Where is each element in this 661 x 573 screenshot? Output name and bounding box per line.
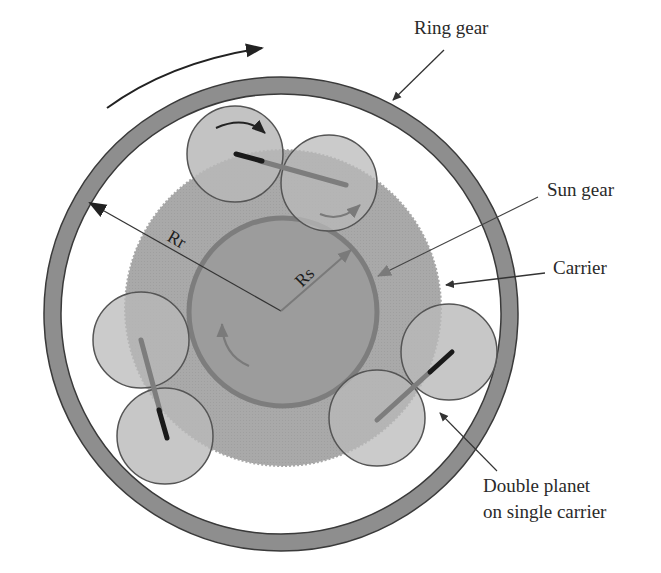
planetary-gear-diagram: Rr Rs Ring gear Sun gear Carrier Double … — [0, 0, 661, 573]
double-planet-label-line2: on single carrier — [483, 501, 607, 522]
double-planet-label-line1: Double planet — [483, 475, 591, 496]
carrier-label: Carrier — [553, 257, 607, 278]
sun-gear-label: Sun gear — [547, 179, 615, 200]
carrier-leader — [446, 273, 545, 285]
ring-gear-label: Ring gear — [414, 17, 489, 38]
ring-gear-leader — [393, 50, 444, 100]
sun-gear-disk — [189, 218, 377, 406]
sun-gear — [189, 218, 377, 406]
